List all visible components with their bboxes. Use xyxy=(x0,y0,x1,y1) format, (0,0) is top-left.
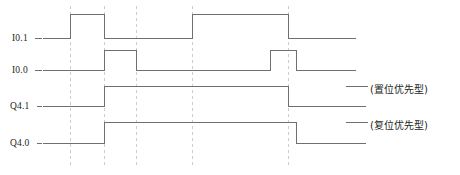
waveform-trace-i0-1 xyxy=(43,15,356,39)
annotation-set-priority: (置位优先型) xyxy=(370,81,428,96)
waveform-i0-0 xyxy=(35,51,356,71)
signal-label-i0-1: I0.1 xyxy=(12,33,28,43)
annotation-reset-priority: (复位优先型) xyxy=(370,117,428,132)
waveform-q4-0 xyxy=(37,123,366,144)
waveform-trace-i0-0 xyxy=(43,51,356,71)
signal-label-q4-1: Q4.1 xyxy=(10,101,30,111)
timing-diagram-figure: I0.1I0.0Q4.1Q4.0 (置位优先型)(复位优先型) xyxy=(0,0,460,175)
signal-label-i0-0: I0.0 xyxy=(12,65,28,75)
waveform-trace-q4-1 xyxy=(43,87,366,107)
waveform-q4-1 xyxy=(37,87,366,107)
waveform-i0-1 xyxy=(35,15,356,39)
waveform-trace-q4-0 xyxy=(43,123,366,144)
signal-label-q4-0: Q4.0 xyxy=(10,138,30,148)
